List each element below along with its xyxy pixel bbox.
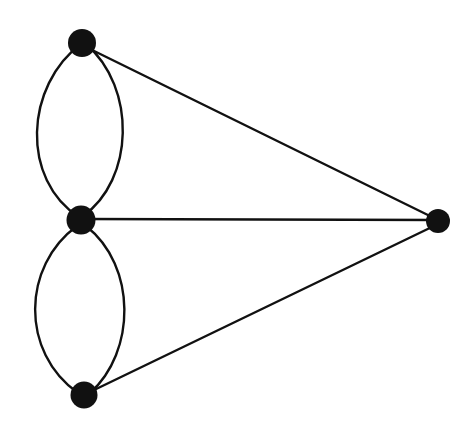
graph-edge-e-middle-right [84,219,436,220]
graph-diagram-canvas [0,0,474,423]
graph-vertex-v-right [426,209,450,233]
graph-diagram-svg [0,0,474,423]
graph-vertex-v-top [68,29,96,57]
graph-vertex-v-bottom [71,382,98,409]
graph-edge-e-top-middle-left [37,43,82,217]
graph-edge-e-top-middle-right [83,44,123,216]
graph-edge-e-bottom-right [92,225,436,391]
graph-edge-e-top-right [88,48,436,219]
graph-edge-e-middle-bottom-left [35,226,78,393]
graph-vertex-v-middle [67,206,96,235]
graph-edge-e-middle-bottom-right [86,226,124,393]
